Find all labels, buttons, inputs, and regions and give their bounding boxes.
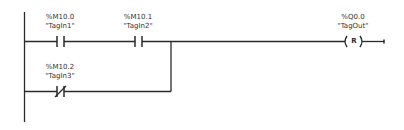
contact1-address: %M10.0: [30, 13, 90, 22]
contact3-address: %M10.2: [30, 63, 90, 72]
coil-tag: "TagOut": [323, 22, 383, 31]
contact-no-tagin2[interactable]: [135, 36, 142, 47]
main-rung: [25, 40, 385, 44]
contact2-tag: "TagIn2": [108, 22, 168, 31]
contact2-address: %M10.1: [108, 13, 168, 22]
contact-no-tagin1[interactable]: [57, 36, 64, 47]
contact1-tag: "TagIn1": [30, 22, 90, 31]
coil-symbol: R: [349, 36, 359, 47]
contact-nc-tagin3[interactable]: [55, 86, 66, 97]
coil-address: %Q0.0: [323, 13, 383, 22]
contact3-tag: "TagIn3": [30, 72, 90, 81]
